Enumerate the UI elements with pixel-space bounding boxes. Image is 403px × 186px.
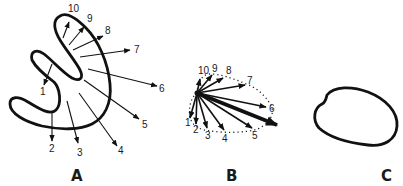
vector-b-2 — [196, 93, 197, 124]
vector-a-label-2: 2 — [49, 143, 55, 154]
vector-b-label-1: 1 — [185, 117, 191, 128]
vector-a-label-10: 10 — [68, 3, 80, 14]
panel-c-loop — [315, 88, 397, 146]
vector-a-label-5: 5 — [142, 119, 148, 130]
vector-a-label-9: 9 — [87, 13, 93, 24]
vector-a-10 — [63, 22, 69, 38]
vector-a-label-8: 8 — [105, 25, 111, 36]
panel-c: C — [315, 88, 397, 185]
panel-a-outline — [10, 15, 110, 129]
vector-a-6 — [88, 69, 157, 86]
vector-a-label-4: 4 — [118, 145, 124, 156]
diagram-canvas: 1 2 3 4 5 6 7 8 9 10 A 1 2 3 4 5 6 7 8 9… — [0, 0, 403, 186]
vector-a-label-1: 1 — [40, 86, 46, 97]
vector-b-label-8: 8 — [226, 65, 232, 76]
vector-a-9 — [69, 27, 84, 45]
vector-a-3 — [67, 101, 78, 143]
panel-b: 1 2 3 4 5 6 7 8 9 10 B — [185, 63, 277, 185]
panel-c-label: C — [381, 167, 392, 185]
vector-b-label-9: 9 — [212, 63, 218, 74]
panel-b-envelope — [189, 74, 272, 132]
panel-b-label: B — [226, 167, 237, 185]
panel-a: 1 2 3 4 5 6 7 8 9 10 A — [10, 3, 165, 185]
vector-b-label-2: 2 — [193, 124, 199, 135]
vector-a-label-7: 7 — [134, 44, 140, 55]
vector-b-label-10: 10 — [198, 65, 210, 76]
vector-b-label-7: 7 — [247, 75, 253, 86]
vector-b-origin — [195, 91, 200, 96]
vector-a-label-3: 3 — [77, 147, 83, 158]
vector-b-label-5: 5 — [252, 130, 258, 141]
vector-a-7 — [80, 50, 130, 57]
vector-a-label-6: 6 — [159, 83, 165, 94]
vector-b-label-6: 6 — [269, 103, 275, 114]
vector-b-label-3: 3 — [205, 130, 211, 141]
vector-b-label-4: 4 — [222, 133, 228, 144]
panel-a-label: A — [71, 167, 83, 185]
vector-a-4 — [79, 93, 117, 146]
